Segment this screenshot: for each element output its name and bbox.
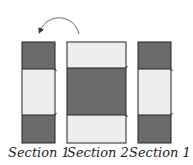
section-diagram (0, 0, 193, 165)
label-section-2: Section 2 (67, 145, 126, 160)
panel-section-2 (67, 42, 128, 143)
panel-section-1-left (22, 42, 57, 143)
panel-section-1-right (138, 42, 173, 143)
label-section-1-right: Section 1 (129, 145, 187, 160)
curved-arrow-icon (40, 18, 79, 34)
label-section-1-left: Section 1 (8, 145, 66, 160)
